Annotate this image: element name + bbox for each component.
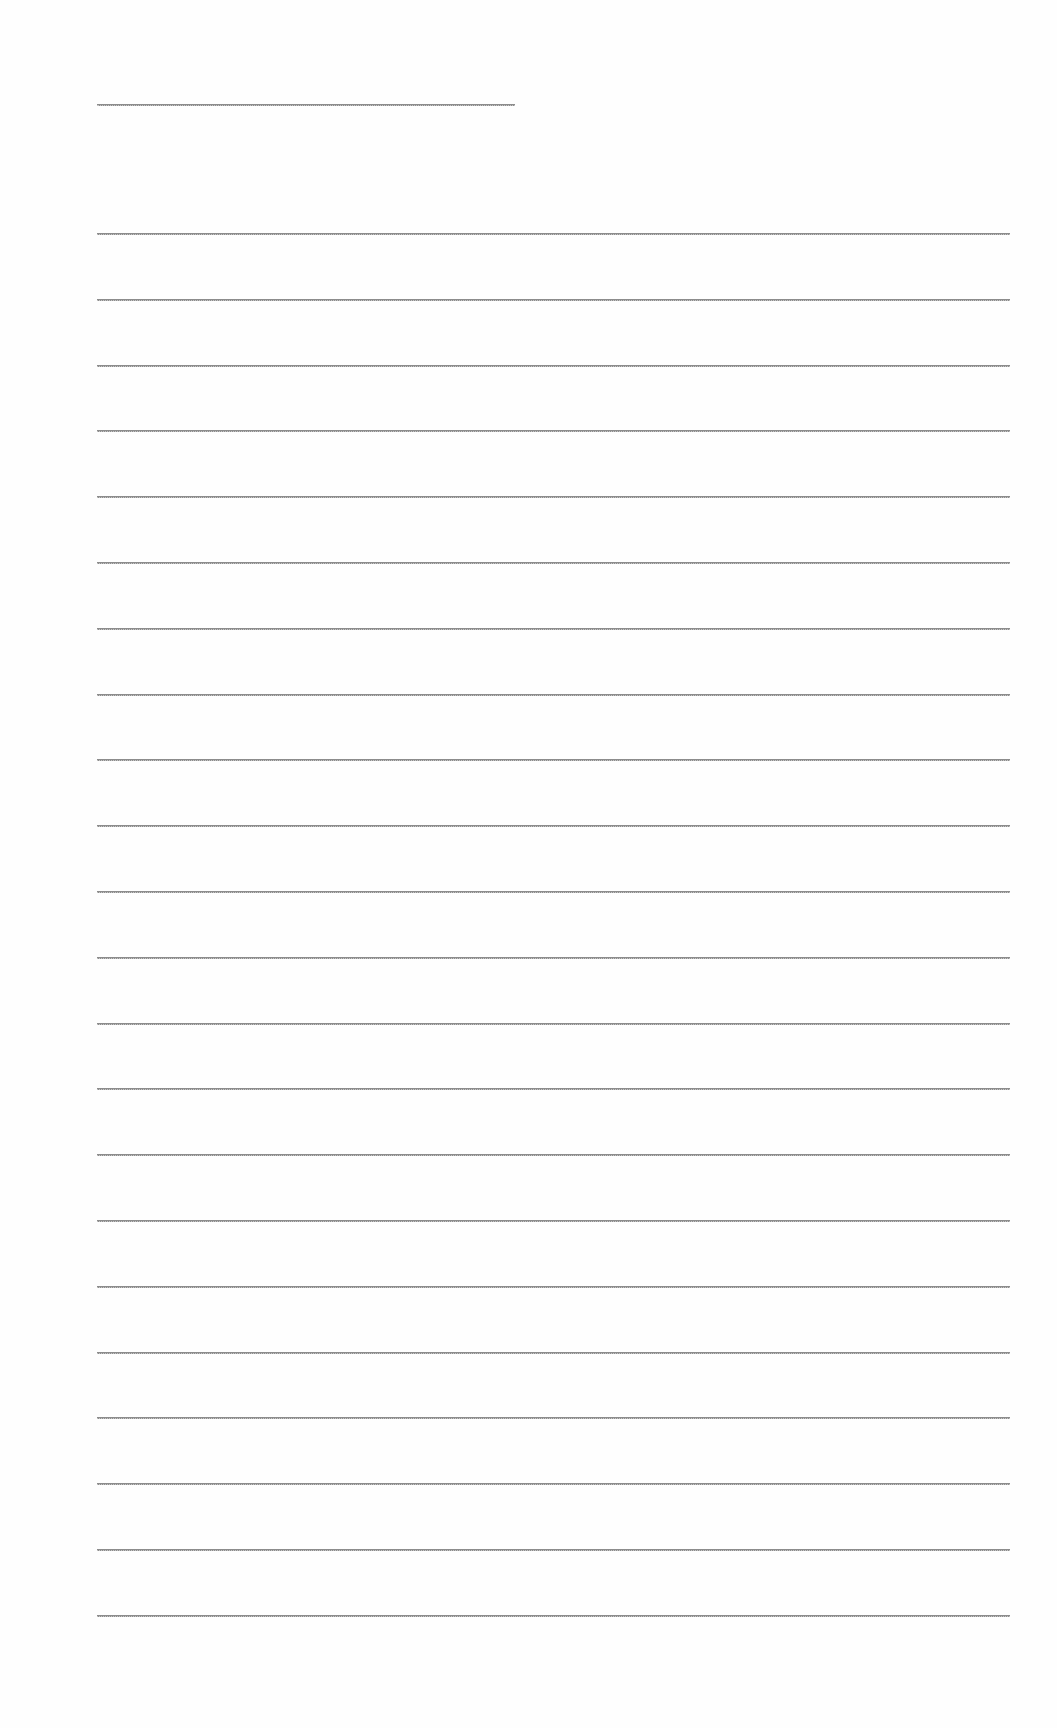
- ruled-line: [97, 1220, 1010, 1222]
- ruled-line: [97, 365, 1010, 367]
- ruled-line: [97, 1088, 1010, 1090]
- lined-page: [0, 0, 1057, 1728]
- ruled-line: [97, 891, 1010, 893]
- ruled-line: [97, 1483, 1010, 1485]
- ruled-line: [97, 562, 1010, 564]
- ruled-line: [97, 1286, 1010, 1288]
- ruled-line: [97, 1023, 1010, 1025]
- ruled-line: [97, 1154, 1010, 1156]
- ruled-line: [97, 1615, 1010, 1617]
- ruled-line: [97, 1549, 1010, 1551]
- ruled-line: [97, 628, 1010, 630]
- ruled-line: [97, 957, 1010, 959]
- ruled-line: [97, 759, 1010, 761]
- ruled-line: [97, 233, 1010, 235]
- ruled-line: [97, 1352, 1010, 1354]
- ruled-line: [97, 694, 1010, 696]
- ruled-line: [97, 825, 1010, 827]
- ruled-line: [97, 299, 1010, 301]
- ruled-line: [97, 496, 1010, 498]
- ruled-line: [97, 1417, 1010, 1419]
- header-line: [97, 104, 515, 106]
- ruled-line: [97, 430, 1010, 432]
